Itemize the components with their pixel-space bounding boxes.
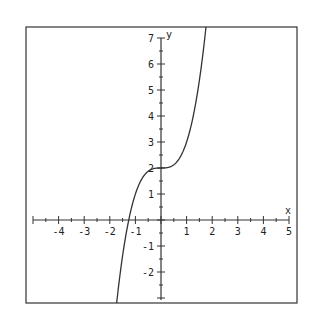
x-tick-label: 3 <box>235 226 241 237</box>
y-tick-label: 4 <box>148 111 154 122</box>
y-axis-label: y <box>166 29 172 40</box>
x-tick-label: 1 <box>184 226 190 237</box>
x-tick-label: -3 <box>78 226 90 237</box>
x-tick-label: 5 <box>286 226 292 237</box>
y-tick-label: -2 <box>142 267 154 278</box>
x-tick-label: 2 <box>209 226 215 237</box>
y-tick-label: 7 <box>148 33 154 44</box>
x-tick-label: -4 <box>53 226 65 237</box>
y-tick-label: 6 <box>148 59 154 70</box>
y-tick-label: 5 <box>148 85 154 96</box>
y-tick-label: 3 <box>148 137 154 148</box>
function-plot: -4-3-2-112345-2-11234567 x y <box>0 0 319 328</box>
x-tick-label: -2 <box>104 226 116 237</box>
x-axis-label: x <box>285 205 291 216</box>
y-tick-label: -1 <box>142 241 154 252</box>
y-tick-label: 1 <box>148 189 154 200</box>
x-tick-label: -1 <box>129 226 141 237</box>
x-tick-label: 4 <box>260 226 266 237</box>
